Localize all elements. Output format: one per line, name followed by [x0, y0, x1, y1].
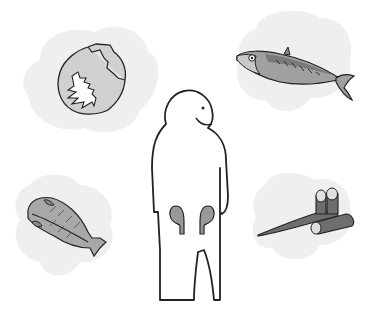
- dried-fish-group: [15, 174, 112, 275]
- person-figure: [152, 90, 228, 300]
- mackerel-group: [237, 11, 354, 111]
- illustration-canvas: [0, 0, 381, 332]
- cabbage-group: [23, 27, 158, 132]
- burdock-group: [253, 173, 354, 259]
- person-outline: [152, 90, 228, 300]
- eye: [202, 107, 205, 110]
